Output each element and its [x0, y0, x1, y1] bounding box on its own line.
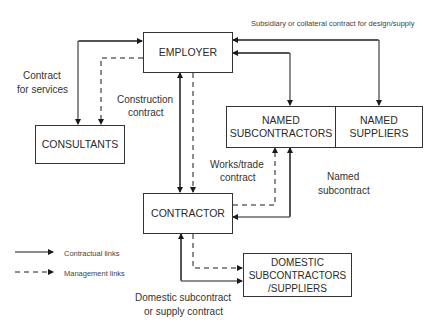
employer-named-subcontractors: [233, 53, 290, 105]
consultants-box: CONSULTANTS: [35, 125, 125, 164]
works-trade-label-1: Works/trade: [210, 158, 264, 171]
employer-label: EMPLOYER: [159, 46, 217, 59]
named-subcontractors-box: NAMED SUBCONTRACTORS: [226, 106, 336, 148]
contract-services-label-2: for services: [17, 83, 68, 96]
consultants-label: CONSULTANTS: [42, 138, 119, 151]
construction-contract-label-1: Construction: [117, 93, 173, 106]
named-subcontractors-label: NAMED SUBCONTRACTORS: [230, 114, 332, 140]
contract-services-label-1: Contract: [23, 69, 61, 82]
contractor-label: CONTRACTOR: [151, 207, 225, 220]
domestic-contract-label-2: or supply contract: [144, 305, 223, 318]
contractor-domestic-management: [193, 234, 242, 268]
named-subcontract-label-2: subcontract: [318, 184, 370, 197]
legend-management-label: Management links: [64, 267, 125, 280]
domestic-label: DOMESTIC SUBCONTRACTORS /SUPPLIERS: [249, 256, 347, 295]
employer-named-suppliers: [233, 40, 379, 105]
legend-contractual-label: Contractual links: [64, 247, 119, 260]
named-suppliers-box: NAMED SUPPLIERS: [335, 106, 423, 148]
employer-box: EMPLOYER: [143, 32, 233, 73]
domestic-contract-label-1: Domestic subcontract: [135, 291, 231, 304]
contractor-box: CONTRACTOR: [143, 193, 233, 234]
construction-contract-label-2: contract: [128, 106, 164, 119]
subsidiary-label: Subsidiary or collateral contract for de…: [251, 17, 414, 30]
named-subcontract-label-1: Named: [327, 170, 359, 183]
named-suppliers-label: NAMED SUPPLIERS: [350, 114, 409, 140]
contractor-domestic-contract: [181, 234, 242, 281]
domestic-box: DOMESTIC SUBCONTRACTORS /SUPPLIERS: [243, 253, 352, 297]
works-trade-label-2: contract: [220, 171, 256, 184]
